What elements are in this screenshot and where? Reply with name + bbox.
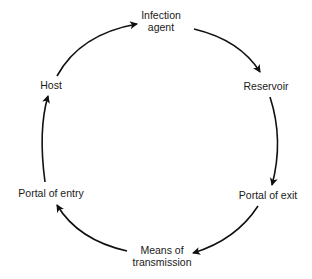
node-label-line1: Portal of exit: [239, 189, 297, 201]
node-host: Host: [40, 79, 62, 91]
node-reservoir: Reservoir: [244, 80, 289, 92]
arrow-agent-to-reservoir: [194, 29, 260, 72]
arrow-reservoir-to-exit: [270, 97, 278, 185]
cycle-arrows: [0, 0, 312, 279]
arrow-transmission-to-entry: [57, 205, 127, 251]
node-infection-agent: Infection agent: [141, 9, 181, 33]
arrow-exit-to-transmission: [193, 206, 258, 253]
node-label-line2: transmission: [133, 256, 192, 268]
node-portal-of-exit: Portal of exit: [239, 189, 297, 201]
arrow-entry-to-host: [42, 96, 48, 182]
node-label-line2: agent: [141, 21, 181, 33]
node-label-line1: Host: [40, 79, 62, 91]
arrow-host-to-agent: [57, 24, 137, 76]
node-label-line1: Reservoir: [244, 80, 289, 92]
node-label-line1: Infection: [141, 9, 181, 21]
node-label-line1: Portal of entry: [18, 187, 83, 199]
node-label-line1: Means of: [133, 244, 192, 256]
node-portal-of-entry: Portal of entry: [18, 187, 83, 199]
node-means-of-transmission: Means of transmission: [133, 244, 192, 268]
